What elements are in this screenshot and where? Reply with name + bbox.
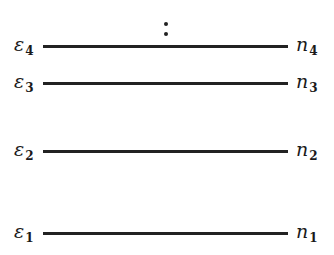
- energy-label: ε4: [14, 34, 34, 61]
- energy-label: ε3: [14, 71, 34, 98]
- ellipsis-dot-upper: [164, 22, 168, 26]
- ellipsis-dot-lower: [164, 32, 168, 36]
- energy-label: ε1: [14, 221, 34, 248]
- level-line: [43, 150, 288, 153]
- level-line: [43, 232, 288, 235]
- level-line: [43, 45, 288, 48]
- energy-label: ε2: [14, 139, 34, 166]
- occupancy-label: n4: [296, 34, 318, 61]
- level-line: [43, 82, 288, 85]
- occupancy-label: n3: [296, 71, 318, 98]
- occupancy-label: n1: [296, 221, 318, 248]
- occupancy-label: n2: [296, 139, 318, 166]
